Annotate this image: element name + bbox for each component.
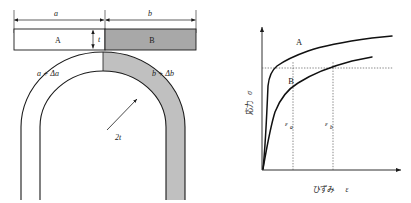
dimension-label-a: a bbox=[54, 9, 58, 18]
bent-inner-contour bbox=[40, 71, 166, 200]
bent-inner-white-fill bbox=[21, 52, 103, 200]
chart-annotation-epsilon-a: ε a bbox=[285, 120, 293, 130]
chart-y-axis-label-symbol: σ bbox=[245, 91, 254, 95]
chart-x-axis-label-text: ひずみ bbox=[313, 184, 335, 194]
bent-label-left: a + Δa bbox=[37, 69, 59, 78]
strip-label-a: A bbox=[55, 36, 61, 45]
chart-annotation-epsilon-a-subscript: a bbox=[290, 124, 293, 130]
chart-series-label-b: B bbox=[288, 76, 294, 86]
figure-container: a b A B t a + Δa b + bbox=[0, 0, 411, 203]
chart-annotation-epsilon-b: ε b bbox=[325, 120, 333, 130]
chart-series-a bbox=[263, 36, 392, 169]
chart-annotation-epsilon-b-symbol: ε bbox=[325, 120, 328, 128]
technical-figure: a b A B t a + Δa b + bbox=[0, 0, 411, 203]
stress-strain-chart: A B ε a ε b 応力 σ ひずみ ε bbox=[244, 27, 401, 194]
chart-y-axis-label-text: 応力 bbox=[244, 101, 254, 115]
bent-strip-diagram: a + Δa b + Δb 2t bbox=[21, 52, 185, 200]
chart-series-label-a: A bbox=[296, 37, 303, 47]
bent-thickness-label: 2t bbox=[115, 133, 122, 142]
chart-series-b bbox=[263, 57, 372, 169]
strip-diagram: a b A B t bbox=[14, 9, 196, 50]
chart-x-axis-label-symbol: ε bbox=[346, 185, 349, 194]
chart-annotation-epsilon-a-symbol: ε bbox=[285, 120, 288, 128]
chart-y-axis-label: 応力 σ bbox=[244, 91, 254, 115]
strip-label-b: B bbox=[149, 36, 154, 45]
dimension-label-b: b bbox=[148, 9, 152, 18]
bent-label-right: b + Δb bbox=[152, 69, 174, 78]
chart-annotation-epsilon-b-subscript: b bbox=[330, 124, 333, 130]
bent-thickness-leader bbox=[107, 99, 137, 130]
